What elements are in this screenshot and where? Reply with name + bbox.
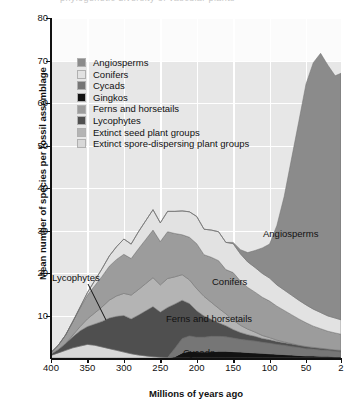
legend-item-angiosperms[interactable]: Angiosperms bbox=[77, 57, 249, 69]
x-tickmark-2 bbox=[341, 358, 342, 363]
x-tickmark-100 bbox=[270, 358, 271, 363]
legend-label: Gingkos bbox=[93, 93, 128, 103]
legend-item-extinct-seed-plant-groups[interactable]: Extinct seed plant groups bbox=[77, 127, 249, 139]
legend-swatch-icon bbox=[77, 105, 86, 114]
x-tickmark-150 bbox=[233, 358, 234, 363]
x-tickmark-400 bbox=[51, 358, 52, 363]
legend-label: Angiosperms bbox=[93, 58, 148, 68]
y-tickmark-20 bbox=[46, 273, 51, 274]
y-tickmark-60 bbox=[46, 103, 51, 104]
y-tickmark-50 bbox=[46, 146, 51, 147]
y-tickmark-80 bbox=[46, 18, 51, 19]
legend-swatch-icon bbox=[77, 70, 86, 79]
y-tickmark-10 bbox=[46, 316, 51, 317]
y-tick-70: 70 bbox=[26, 56, 48, 66]
y-tickmark-30 bbox=[46, 231, 51, 232]
x-tick-labels: 400350300250200150100502 bbox=[0, 362, 348, 378]
legend-label: Cycads bbox=[93, 81, 125, 91]
legend-item-cycads[interactable]: Cycads bbox=[77, 80, 249, 92]
y-tickmark-40 bbox=[46, 188, 51, 189]
y-tick-50: 50 bbox=[26, 141, 48, 151]
x-tick-350: 350 bbox=[79, 362, 95, 373]
x-tickmark-200 bbox=[197, 358, 198, 363]
x-tickmark-250 bbox=[160, 358, 161, 363]
x-axis-title: Millions of years ago bbox=[51, 388, 341, 399]
legend-label: Conifers bbox=[93, 70, 128, 80]
legend-swatch-icon bbox=[77, 116, 86, 125]
legend-label: Extinct seed plant groups bbox=[93, 128, 200, 138]
y-tick-30: 30 bbox=[26, 226, 48, 236]
y-tick-20: 20 bbox=[26, 268, 48, 278]
legend-label: Ferns and horsetails bbox=[93, 104, 179, 114]
y-tick-10: 10 bbox=[26, 311, 48, 321]
legend-item-conifers[interactable]: Conifers bbox=[77, 69, 249, 81]
legend-item-lycophytes[interactable]: Lycophytes bbox=[77, 115, 249, 127]
legend-item-extinct-spore-dispersing-plant-groups[interactable]: Extinct spore-dispersing plant groups bbox=[77, 138, 249, 150]
x-tick-300: 300 bbox=[116, 362, 132, 373]
label-cycads: Cycads bbox=[183, 347, 215, 358]
legend-label: Extinct spore-dispersing plant groups bbox=[93, 139, 249, 149]
x-tick-2: 2 bbox=[338, 362, 343, 373]
legend-swatch-icon bbox=[77, 93, 86, 102]
label-angiosperms: Angiosperms bbox=[263, 228, 318, 239]
y-tick-60: 60 bbox=[26, 98, 48, 108]
legend-item-gingkos[interactable]: Gingkos bbox=[77, 92, 249, 104]
y-tick-labels: 1020304050607080 bbox=[22, 0, 48, 411]
legend-label: Lycophytes bbox=[93, 116, 141, 126]
x-tickmark-300 bbox=[124, 358, 125, 363]
legend-swatch-icon bbox=[77, 58, 86, 67]
label-conifers: Conifers bbox=[212, 276, 247, 287]
legend-swatch-icon bbox=[77, 128, 86, 137]
legend: AngiospermsConifersCycadsGingkosFerns an… bbox=[77, 57, 249, 150]
legend-swatch-icon bbox=[77, 139, 86, 148]
figure-root: phylogenetic diversity of vascular plant… bbox=[0, 0, 348, 411]
cropped-header-remnant: phylogenetic diversity of vascular plant… bbox=[0, 0, 348, 9]
x-tickmark-350 bbox=[87, 358, 88, 363]
x-tick-150: 150 bbox=[225, 362, 241, 373]
y-tick-40: 40 bbox=[26, 183, 48, 193]
legend-swatch-icon bbox=[77, 81, 86, 90]
label-ferns-horsetails: Ferns and horsetails bbox=[166, 313, 252, 324]
y-tickmark-70 bbox=[46, 61, 51, 62]
x-tick-250: 250 bbox=[152, 362, 168, 373]
x-tick-200: 200 bbox=[189, 362, 205, 373]
x-tick-400: 400 bbox=[43, 362, 59, 373]
x-tick-50: 50 bbox=[301, 362, 312, 373]
label-lycophytes: Lycophytes bbox=[52, 272, 100, 283]
y-tick-80: 80 bbox=[26, 13, 48, 23]
x-tick-100: 100 bbox=[262, 362, 278, 373]
legend-item-ferns-and-horsetails[interactable]: Ferns and horsetails bbox=[77, 103, 249, 115]
x-tickmark-50 bbox=[306, 358, 307, 363]
